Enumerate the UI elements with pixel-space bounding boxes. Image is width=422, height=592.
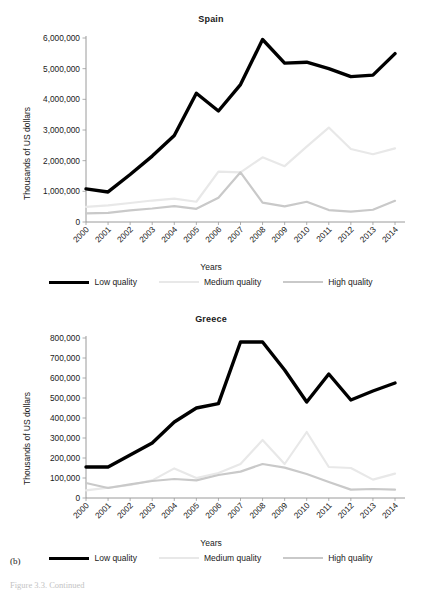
svg-text:2008: 2008: [247, 500, 267, 520]
svg-text:700,000: 700,000: [50, 353, 80, 363]
svg-text:2012: 2012: [336, 224, 356, 244]
svg-text:0: 0: [75, 493, 80, 503]
legend-swatch-icon: [49, 281, 89, 284]
chart-panel-spain: Spain Thousands of US dollars 01,000,000…: [0, 0, 422, 300]
svg-text:2014: 2014: [380, 500, 400, 520]
svg-text:2000: 2000: [71, 500, 91, 520]
svg-text:2009: 2009: [269, 224, 289, 244]
svg-text:2,000,000: 2,000,000: [43, 156, 80, 166]
x-axis-title-spain: Years: [0, 262, 422, 272]
legend-item-label: Medium quality: [204, 553, 261, 563]
svg-text:2008: 2008: [247, 224, 267, 244]
svg-text:2003: 2003: [137, 500, 157, 520]
svg-text:0: 0: [75, 217, 80, 227]
legend-item-label: Medium quality: [204, 277, 261, 287]
svg-text:300,000: 300,000: [50, 433, 80, 443]
svg-text:2010: 2010: [291, 224, 311, 244]
svg-text:4,000,000: 4,000,000: [43, 94, 80, 104]
legend-item-low-quality: Low quality: [49, 277, 137, 287]
y-axis-title-greece: Thousands of US dollars: [22, 392, 32, 485]
legend-item-label: High quality: [328, 553, 372, 563]
x-axis-title-greece: Years: [0, 538, 422, 548]
svg-text:500,000: 500,000: [50, 393, 80, 403]
svg-text:2005: 2005: [181, 224, 201, 244]
chart-plot-spain: 01,000,0002,000,0003,000,0004,000,0005,0…: [0, 0, 422, 268]
svg-text:2002: 2002: [115, 224, 135, 244]
chart-title-spain: Spain: [0, 14, 422, 24]
legend-swatch-icon: [49, 557, 89, 560]
figure-caption-b: (b): [10, 556, 21, 566]
chart-plot-greece: 0100,000200,000300,000400,000500,000600,…: [0, 300, 422, 545]
legend-swatch-icon: [283, 281, 323, 283]
svg-text:2004: 2004: [159, 500, 179, 520]
legend-item-high-quality: High quality: [283, 277, 372, 287]
svg-text:6,000,000: 6,000,000: [43, 33, 80, 43]
svg-text:2007: 2007: [225, 224, 245, 244]
svg-text:800,000: 800,000: [50, 333, 80, 343]
svg-text:100,000: 100,000: [50, 473, 80, 483]
svg-text:2010: 2010: [291, 500, 311, 520]
svg-text:2001: 2001: [93, 500, 113, 520]
legend-item-label: Low quality: [94, 553, 137, 563]
chart-legend-spain: Low qualityMedium qualityHigh quality: [0, 277, 422, 287]
legend-item-medium-quality: Medium quality: [159, 277, 261, 287]
chart-title-greece: Greece: [0, 314, 422, 324]
svg-text:2012: 2012: [336, 500, 356, 520]
chart-panel-greece: Greece Thousands of US dollars 0100,0002…: [0, 300, 422, 555]
svg-text:2011: 2011: [314, 500, 334, 520]
svg-text:2009: 2009: [269, 500, 289, 520]
svg-text:2014: 2014: [380, 224, 400, 244]
legend-swatch-icon: [283, 557, 323, 559]
svg-text:2000: 2000: [71, 224, 91, 244]
svg-text:2001: 2001: [93, 224, 113, 244]
figure-container: Spain Thousands of US dollars 01,000,000…: [0, 0, 422, 592]
legend-item-label: Low quality: [94, 277, 137, 287]
svg-text:2002: 2002: [115, 500, 135, 520]
svg-text:2013: 2013: [358, 224, 378, 244]
legend-item-high-quality: High quality: [283, 553, 372, 563]
svg-text:2003: 2003: [137, 224, 157, 244]
svg-text:200,000: 200,000: [50, 453, 80, 463]
svg-text:2006: 2006: [203, 500, 223, 520]
legend-item-medium-quality: Medium quality: [159, 553, 261, 563]
legend-item-label: High quality: [328, 277, 372, 287]
svg-text:2004: 2004: [159, 224, 179, 244]
svg-text:2013: 2013: [358, 500, 378, 520]
svg-text:600,000: 600,000: [50, 373, 80, 383]
chart-legend-greece: Low qualityMedium qualityHigh quality: [0, 553, 422, 563]
svg-text:3,000,000: 3,000,000: [43, 125, 80, 135]
y-axis-title-spain: Thousands of US dollars: [22, 107, 32, 200]
legend-item-low-quality: Low quality: [49, 553, 137, 563]
svg-text:2007: 2007: [225, 500, 245, 520]
svg-text:400,000: 400,000: [50, 413, 80, 423]
svg-text:2006: 2006: [203, 224, 223, 244]
svg-text:5,000,000: 5,000,000: [43, 64, 80, 74]
svg-text:2005: 2005: [181, 500, 201, 520]
figure-footer-note: Figure 3.3. Continued: [10, 580, 250, 591]
legend-swatch-icon: [159, 281, 199, 283]
svg-text:1,000,000: 1,000,000: [43, 186, 80, 196]
svg-text:2011: 2011: [314, 224, 334, 244]
legend-swatch-icon: [159, 557, 199, 559]
